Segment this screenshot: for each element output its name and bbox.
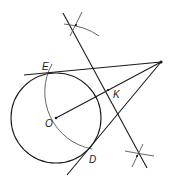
perpendicular-bisector xyxy=(63,13,147,168)
point-o xyxy=(55,117,58,120)
arc-mark-top-2 xyxy=(64,24,99,36)
diagram-canvas: E K O D xyxy=(0,0,176,188)
label-o: O xyxy=(45,118,53,129)
point-p xyxy=(159,60,162,63)
point-k xyxy=(107,89,109,91)
label-e: E xyxy=(42,61,49,72)
point-bottom-intersection xyxy=(136,155,138,157)
point-top-intersection xyxy=(75,24,77,26)
construction-arc-k xyxy=(45,64,92,149)
label-d: D xyxy=(89,154,96,165)
tangent-line-d xyxy=(67,62,161,175)
label-k: K xyxy=(113,89,121,100)
